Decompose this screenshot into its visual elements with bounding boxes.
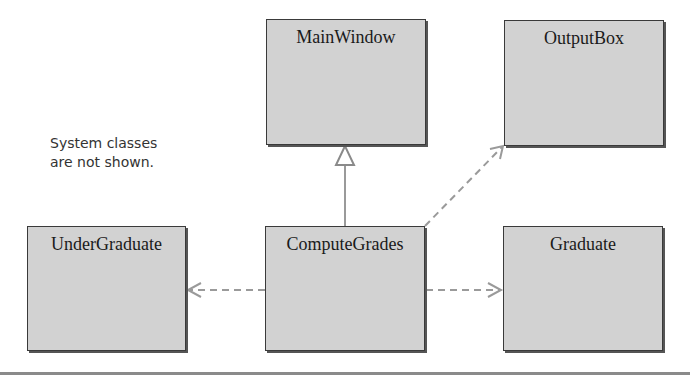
class-box-graduate: Graduate xyxy=(503,226,663,351)
class-name: UnderGraduate xyxy=(28,234,185,255)
class-diagram: System classes are not shown. MainWindow… xyxy=(0,0,690,375)
class-name: ComputeGrades xyxy=(266,234,424,255)
class-box-undergraduate: UnderGraduate xyxy=(27,226,186,351)
class-name: OutputBox xyxy=(505,28,663,49)
class-box-mainwindow: MainWindow xyxy=(266,19,426,145)
class-box-computegrades: ComputeGrades xyxy=(265,226,425,351)
class-name: Graduate xyxy=(504,234,662,255)
class-name: MainWindow xyxy=(267,27,425,48)
inheritance-triangle-icon xyxy=(336,146,354,165)
dependency-line-outputbox xyxy=(425,147,502,226)
class-box-outputbox: OutputBox xyxy=(504,20,664,146)
